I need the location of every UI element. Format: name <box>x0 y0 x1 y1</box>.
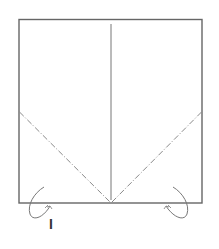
step-label: I <box>46 216 56 232</box>
origami-diagram <box>0 0 219 249</box>
